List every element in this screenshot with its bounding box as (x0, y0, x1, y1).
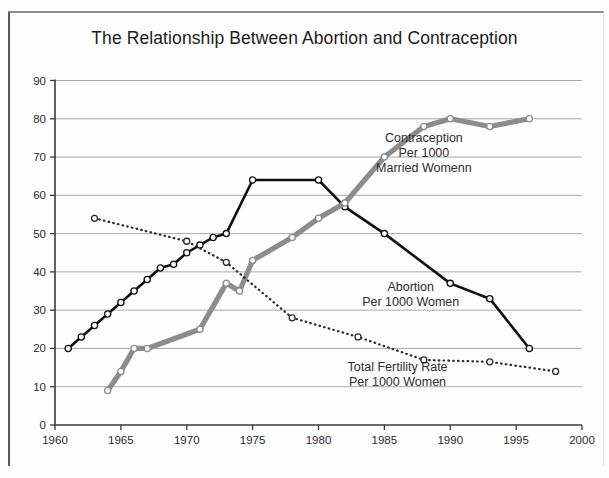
data-point-marker (315, 177, 321, 183)
line-chart-plot: 0102030405060708090 19601965197019751980… (0, 0, 609, 478)
data-point-marker (223, 259, 229, 265)
chart-figure: The Relationship Between Abortion and Co… (0, 0, 609, 478)
abortion-label-line-0: Abortion (387, 280, 434, 294)
y-tick-label-10: 10 (33, 381, 46, 393)
x-tick-label-1970: 1970 (174, 434, 200, 446)
data-point-marker (526, 116, 532, 122)
y-tick-label-0: 0 (40, 419, 46, 431)
contraception-label-line-0: Contraception (385, 131, 463, 145)
data-point-marker (487, 123, 493, 129)
data-point-marker (105, 387, 111, 393)
x-tick-label-2000: 2000 (569, 434, 595, 446)
data-point-marker (447, 116, 453, 122)
x-tick-label-1980: 1980 (306, 434, 332, 446)
x-tick-label-1990: 1990 (437, 434, 463, 446)
data-point-marker (381, 154, 387, 160)
data-point-marker (131, 288, 137, 294)
data-point-marker (381, 231, 387, 237)
data-point-marker (447, 280, 453, 286)
data-point-marker (236, 288, 242, 294)
fertility-label-line-0: Total Fertility Rate (348, 360, 448, 374)
data-point-marker (144, 276, 150, 282)
data-point-marker (91, 322, 97, 328)
data-point-marker (105, 311, 111, 317)
data-point-marker (421, 123, 427, 129)
data-point-marker (223, 280, 229, 286)
series-line (108, 119, 530, 391)
fertility-label: Total Fertility RatePer 1000 Women (348, 360, 448, 389)
y-axis-tick-labels: 0102030405060708090 (33, 75, 46, 432)
data-point-marker (250, 177, 256, 183)
data-point-marker (526, 345, 532, 351)
axes (50, 80, 582, 431)
data-point-marker (342, 200, 348, 206)
y-tick-label-50: 50 (33, 228, 46, 240)
data-point-marker (487, 359, 493, 365)
x-axis-tick-labels: 196019651970197519801985199019952000 (42, 434, 595, 446)
contraception-label-line-1: Per 1000 (399, 146, 450, 160)
data-point-marker (553, 368, 559, 374)
x-tick-label-1965: 1965 (108, 434, 134, 446)
data-point-marker (487, 296, 493, 302)
data-point-marker (289, 315, 295, 321)
y-tick-label-20: 20 (33, 342, 46, 354)
data-point-marker (65, 345, 71, 351)
y-tick-label-30: 30 (33, 304, 46, 316)
fertility-label-line-1: Per 1000 Women (349, 375, 446, 389)
series-0 (65, 177, 532, 352)
data-point-marker (250, 257, 256, 263)
data-point-marker (184, 238, 190, 244)
data-point-marker (170, 261, 176, 267)
data-point-marker (92, 215, 98, 221)
x-tick-label-1995: 1995 (503, 434, 529, 446)
y-tick-label-90: 90 (33, 75, 46, 87)
contraception-label-line-2: Married Womenn (376, 161, 472, 175)
series-line (68, 180, 529, 348)
data-point-marker (355, 334, 361, 340)
data-point-marker (78, 334, 84, 340)
abortion-label: AbortionPer 1000 Women (362, 280, 459, 309)
series-2 (92, 215, 559, 374)
data-point-marker (289, 234, 295, 240)
data-point-marker (197, 242, 203, 248)
data-point-marker (223, 231, 229, 237)
data-point-marker (131, 345, 137, 351)
y-tick-label-80: 80 (33, 113, 46, 125)
abortion-label-line-1: Per 1000 Women (362, 295, 459, 309)
x-tick-label-1975: 1975 (240, 434, 266, 446)
y-tick-label-70: 70 (33, 151, 46, 163)
x-tick-label-1960: 1960 (42, 434, 68, 446)
x-tick-label-1985: 1985 (372, 434, 398, 446)
data-point-marker (315, 215, 321, 221)
data-point-marker (197, 326, 203, 332)
data-point-marker (157, 265, 163, 271)
data-point-marker (210, 234, 216, 240)
data-point-marker (118, 368, 124, 374)
y-tick-label-40: 40 (33, 266, 46, 278)
y-tick-label-60: 60 (33, 189, 46, 201)
data-point-marker (118, 299, 124, 305)
series-annotations: ContraceptionPer 1000Married WomennAbort… (348, 131, 472, 390)
data-point-marker (144, 345, 150, 351)
data-point-marker (184, 250, 190, 256)
